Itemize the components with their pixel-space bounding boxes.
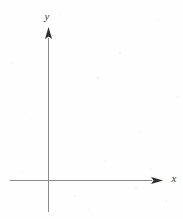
- y-axis-arrowhead: [45, 27, 52, 39]
- x-axis-arrowhead: [151, 177, 163, 184]
- x-axis-label: x: [168, 173, 180, 184]
- figure-root: y x: [0, 0, 183, 219]
- coordinate-axes-figure: [0, 0, 183, 219]
- y-axis-label: y: [41, 11, 53, 22]
